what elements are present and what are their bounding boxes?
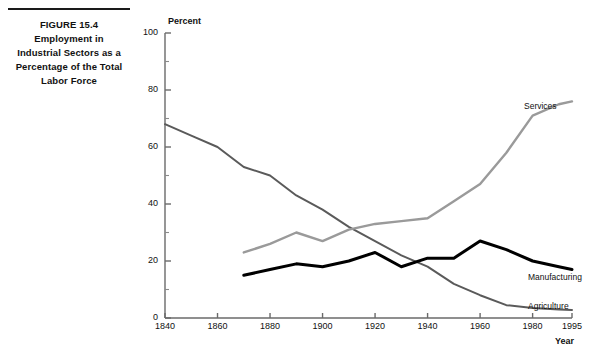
- y-tick-label: 80: [136, 84, 158, 94]
- x-tick-label: 1960: [463, 321, 497, 331]
- y-tick-label: 60: [136, 141, 158, 151]
- x-tick-label: 1940: [411, 321, 445, 331]
- series-label-services: Services: [524, 101, 557, 111]
- series-label-manufacturing: Manufacturing: [528, 272, 582, 282]
- x-tick-label: 1880: [253, 321, 287, 331]
- y-tick-label: 40: [136, 198, 158, 208]
- y-tick-label: 100: [136, 27, 158, 37]
- x-tick-label: 1920: [358, 321, 392, 331]
- x-tick-label: 1980: [516, 321, 550, 331]
- x-tick-label: 1860: [201, 321, 235, 331]
- y-axis-title: Percent: [168, 16, 201, 26]
- chart-axes: [165, 33, 572, 318]
- x-tick-label: 1995: [555, 321, 589, 331]
- chart-canvas: [0, 0, 601, 353]
- series-line-agriculture: [165, 124, 572, 310]
- x-tick-label: 1840: [148, 321, 182, 331]
- chart-series: [165, 101, 572, 310]
- y-ticks: [165, 33, 171, 318]
- figure-root: FIGURE 15.4 Employment in Industrial Sec…: [0, 0, 601, 353]
- y-tick-label: 20: [136, 255, 158, 265]
- x-tick-label: 1900: [306, 321, 340, 331]
- x-ticks: [165, 313, 572, 318]
- line-chart: Percent Year 020406080100184018601880190…: [0, 0, 601, 353]
- series-line-services: [244, 101, 572, 252]
- series-label-agriculture: Agriculture: [528, 301, 569, 311]
- x-axis-title: Year: [555, 336, 574, 346]
